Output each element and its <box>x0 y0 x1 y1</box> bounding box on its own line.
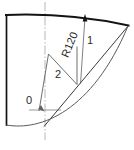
callout-2-label: 2 <box>55 68 61 80</box>
callout-0-label: 0 <box>26 94 32 106</box>
callout-1-label: 1 <box>87 34 93 46</box>
sector-drawing-canvas: R120 1 2 0 <box>0 0 134 150</box>
radius-leader-line <box>81 17 86 84</box>
outer-top-arc <box>6 15 129 26</box>
figure-caption <box>0 138 134 150</box>
